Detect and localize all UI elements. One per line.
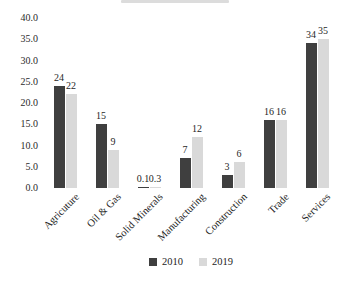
legend-item: 2010 — [149, 256, 183, 268]
bar-group: 2422 — [44, 18, 86, 188]
bar-value-label: 16 — [276, 106, 286, 118]
bar-value-label: 16 — [264, 106, 274, 118]
y-tick-label: 15.0 — [0, 118, 38, 130]
bar-2010: 7 — [180, 158, 191, 188]
x-axis-category-labels: AgricutureOil & GasSolid MineralsManufac… — [0, 191, 346, 249]
bar-value-label: 0.3 — [149, 173, 162, 185]
legend-item: 2019 — [199, 256, 233, 268]
bar-2010: 16 — [264, 120, 275, 188]
bar-group: 1616 — [254, 18, 296, 188]
bar-value-label: 9 — [111, 136, 116, 148]
bar-value-label: 22 — [66, 80, 76, 92]
bar-2019: 9 — [108, 150, 119, 188]
bar-2019: 35 — [318, 39, 329, 188]
bar-group: 159 — [86, 18, 128, 188]
bar-2010: 24 — [54, 86, 65, 188]
bar-2010: 0.1 — [138, 187, 149, 188]
bar-2019: 16 — [276, 120, 287, 188]
plot-area: 24221590.10.37123616163435 — [44, 18, 338, 188]
y-tick-label: 5.0 — [0, 161, 38, 173]
legend-label: 2019 — [212, 256, 233, 268]
bar-2010: 3 — [222, 175, 233, 188]
bar-value-label: 6 — [237, 148, 242, 160]
bar-value-label: 15 — [96, 110, 106, 122]
bar-value-label: 35 — [318, 25, 328, 37]
x-category-label: Construction — [203, 191, 249, 237]
bar-value-label: 7 — [183, 144, 188, 156]
legend-swatch-icon — [199, 258, 207, 266]
legend-label: 2010 — [162, 256, 183, 268]
y-tick-label: 10.0 — [0, 140, 38, 152]
bar-group: 36 — [212, 18, 254, 188]
bar-2019: 0.3 — [150, 187, 161, 188]
grouped-bar-chart: 40.035.030.025.020.015.010.05.00.0 24221… — [0, 0, 346, 281]
legend-swatch-icon — [149, 258, 157, 266]
bar-2019: 22 — [66, 94, 77, 188]
legend: 20102019 — [44, 255, 338, 269]
bar-value-label: 12 — [192, 123, 202, 135]
bar-2019: 12 — [192, 137, 203, 188]
cropped-title-fragment — [121, 0, 229, 3]
x-category-label: Agricuture — [41, 191, 81, 231]
bar-value-label: 3 — [225, 161, 230, 173]
bar-value-label: 24 — [54, 72, 64, 84]
bar-value-label: 0.1 — [137, 173, 150, 185]
y-tick-label: 20.0 — [0, 97, 38, 109]
y-tick-label: 40.0 — [0, 12, 38, 24]
bar-group: 712 — [170, 18, 212, 188]
x-category-label: Oil & Gas — [84, 191, 122, 229]
bar-2010: 34 — [306, 43, 317, 188]
x-category-label: Trade — [266, 191, 291, 216]
y-tick-label: 30.0 — [0, 55, 38, 67]
y-tick-label: 25.0 — [0, 76, 38, 88]
bar-2019: 6 — [234, 162, 245, 188]
y-tick-label: 35.0 — [0, 33, 38, 45]
bar-2010: 15 — [96, 124, 107, 188]
bar-group: 0.10.3 — [128, 18, 170, 188]
x-category-label: Services — [300, 191, 333, 224]
bar-group: 3435 — [296, 18, 338, 188]
bar-value-label: 34 — [306, 29, 316, 41]
